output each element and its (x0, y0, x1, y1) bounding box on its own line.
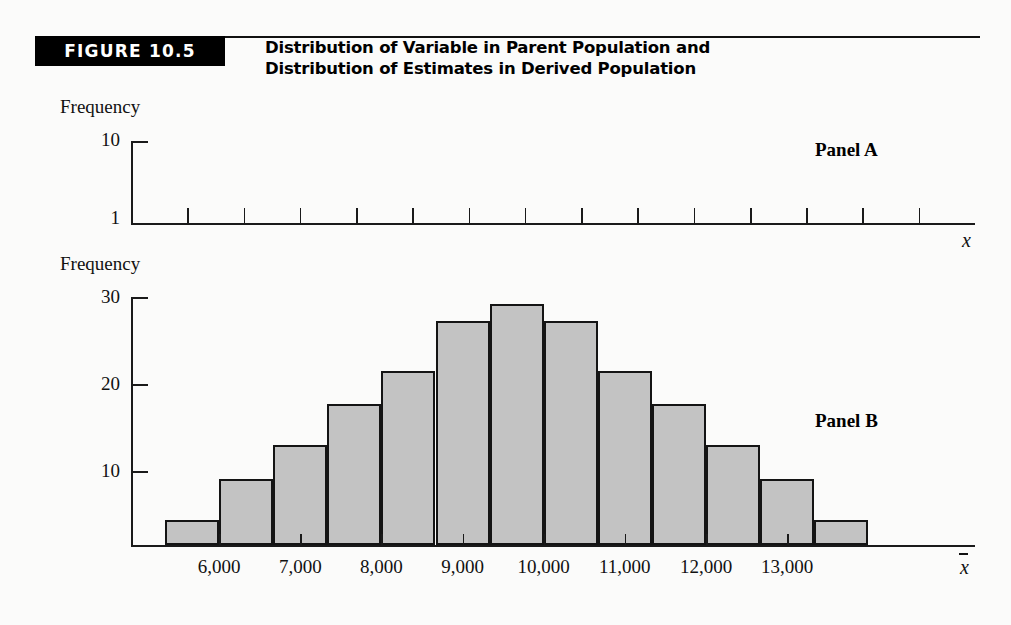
histogram-bar (544, 321, 598, 545)
panel-b-x-tick-label: 13,000 (737, 556, 837, 578)
histogram-bar (165, 520, 219, 545)
histogram-bar (327, 404, 381, 545)
histogram-bar (381, 371, 435, 545)
panel-b-x-tick-mark (787, 534, 789, 546)
panel-b-y-axis-title: Frequency (60, 253, 140, 275)
panel-b-y-axis-line (131, 297, 133, 546)
figure-page: FIGURE 10.5 Distribution of Variable in … (0, 0, 1011, 625)
histogram-bar (598, 371, 652, 545)
panel-b-x-axis-title: x (960, 556, 969, 579)
histogram-bar (652, 404, 706, 545)
panel-b-y-axis-tick-20 (131, 384, 148, 386)
panel-b-y-tick-20: 20 (80, 373, 120, 395)
panel-b-x-tick-mark (544, 534, 546, 546)
panel-b-x-tick-mark (300, 534, 302, 546)
panel-b-y-axis-tick-10 (131, 471, 148, 473)
panel-b-x-tick-mark (706, 534, 708, 546)
panel-b: Frequency 30 20 10 6,0007,0008,0009,0001… (0, 0, 1011, 625)
histogram-bar (436, 321, 490, 545)
panel-b-x-tick-mark (219, 534, 221, 546)
histogram-bar (273, 445, 327, 545)
x-bar-glyph: x (960, 556, 969, 579)
panel-b-x-axis-line (131, 545, 975, 547)
panel-b-x-tick-mark (381, 534, 383, 546)
panel-b-y-axis-tick-30 (131, 297, 148, 299)
histogram-bar (219, 479, 273, 545)
histogram-bar (814, 520, 868, 545)
panel-b-x-tick-mark (625, 534, 627, 546)
panel-b-tag: Panel B (815, 410, 878, 432)
histogram-bar (490, 304, 544, 545)
panel-b-y-tick-10: 10 (80, 460, 120, 482)
panel-b-y-tick-30: 30 (80, 286, 120, 308)
histogram-bar (706, 445, 760, 545)
panel-b-x-tick-mark (463, 534, 465, 546)
